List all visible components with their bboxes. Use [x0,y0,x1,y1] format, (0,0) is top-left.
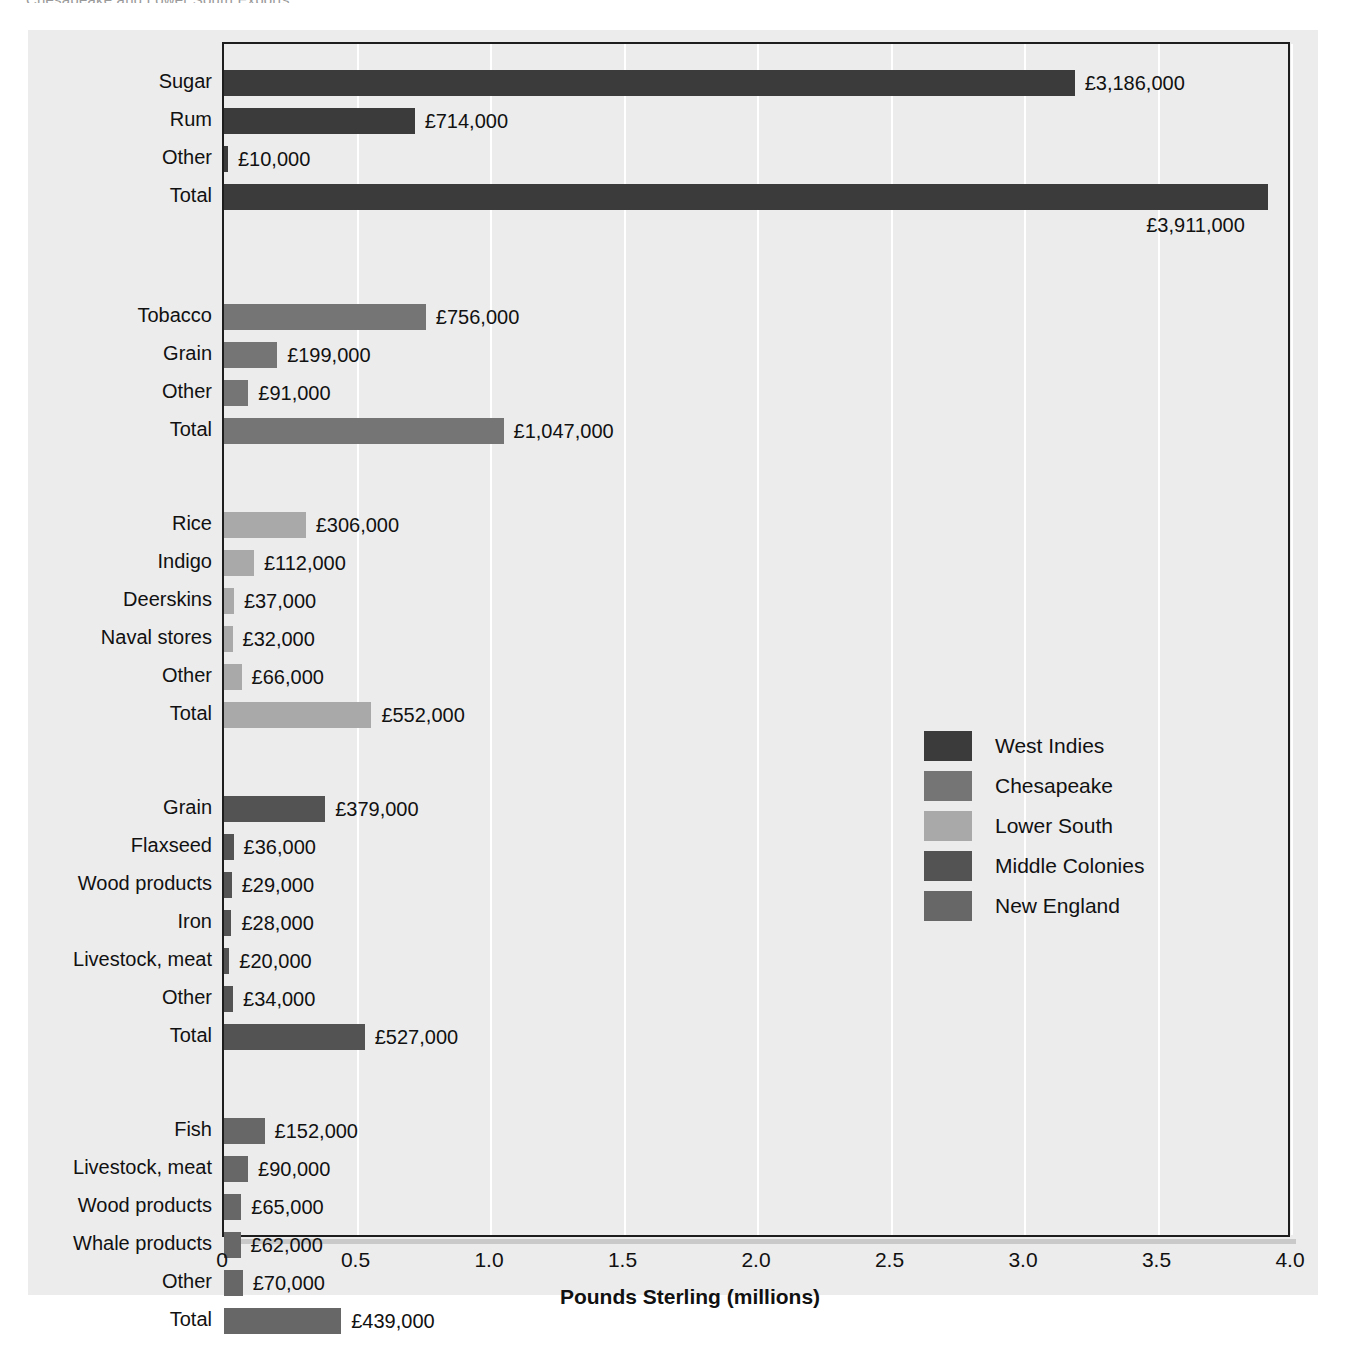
gridline [357,44,359,1235]
x-axis-title-text: Pounds Sterling (millions) [560,1285,820,1309]
bar-value-label: £714,000 [425,110,508,133]
chart-legend: West IndiesChesapeakeLower SouthMiddle C… [924,726,1144,926]
bar-value-label: £28,000 [241,912,313,935]
bar[interactable] [224,1024,365,1050]
bar[interactable] [224,304,426,330]
category-label: Iron [178,908,212,934]
legend-swatch [924,771,972,801]
plot-area: £3,186,000£714,000£10,000£3,911,000£756,… [222,42,1290,1237]
top-caption: Chesapeake and Lower South Exports [26,0,290,3]
x-tick-label: 0 [216,1248,228,1272]
bar-value-label: £91,000 [258,382,330,405]
category-label: Wood products [78,870,212,896]
x-tick-label: 3.5 [1142,1248,1171,1272]
bar[interactable] [224,664,242,690]
category-label: Fish [174,1116,212,1142]
category-label: Total [170,182,212,208]
bar-value-label: £32,000 [243,628,315,651]
bar-value-label: £152,000 [275,1120,358,1143]
category-label: Other [162,144,212,170]
bar[interactable] [224,70,1075,96]
gridline [757,44,759,1235]
legend-swatch [924,811,972,841]
bar-value-label: £34,000 [243,988,315,1011]
category-label: Total [170,1022,212,1048]
category-label: Grain [163,794,212,820]
x-tick-label: 1.0 [474,1248,503,1272]
bar[interactable] [224,1156,248,1182]
legend-item-chesapeake[interactable]: Chesapeake [924,766,1144,806]
bar[interactable] [224,986,233,1012]
bar[interactable] [224,834,234,860]
legend-item-lower-south[interactable]: Lower South [924,806,1144,846]
bar[interactable] [224,1118,265,1144]
category-label: Total [170,700,212,726]
x-tick-label: 2.5 [875,1248,904,1272]
bar-value-label: £90,000 [258,1158,330,1181]
category-label: Livestock, meat [73,946,212,972]
bar[interactable] [224,588,234,614]
bar-value-label: £10,000 [238,148,310,171]
bar-value-label: £756,000 [436,306,519,329]
legend-item-middle-colonies[interactable]: Middle Colonies [924,846,1144,886]
legend-label: Chesapeake [995,774,1113,798]
bar[interactable] [224,184,1268,210]
bar[interactable] [224,910,231,936]
bar[interactable] [224,512,306,538]
category-label: Other [162,378,212,404]
category-label: Other [162,662,212,688]
x-tick-label: 0.5 [341,1248,370,1272]
bar[interactable] [224,380,248,406]
category-label: Tobacco [138,302,213,328]
bar-value-label: £20,000 [239,950,311,973]
plot-area-shadow [228,1239,1296,1244]
bar-value-label: £62,000 [251,1234,323,1257]
bar[interactable] [224,550,254,576]
bar[interactable] [224,342,277,368]
category-label: Rum [170,106,212,132]
category-label: Wood products [78,1192,212,1218]
bar[interactable] [224,146,228,172]
bar-value-label: £3,186,000 [1085,72,1185,95]
gridline [1024,44,1026,1235]
category-label: Total [170,1306,212,1332]
legend-item-west-indies[interactable]: West Indies [924,726,1144,766]
category-label: Naval stores [101,624,212,650]
category-label: Grain [163,340,212,366]
legend-swatch [924,891,972,921]
bar-value-label: £3,911,000 [1146,214,1245,237]
legend-label: New England [995,894,1120,918]
x-tick-label: 3.0 [1008,1248,1037,1272]
bar[interactable] [224,702,371,728]
category-label: Sugar [159,68,212,94]
bar-value-label: £527,000 [375,1026,458,1049]
gridline [891,44,893,1235]
bar[interactable] [224,872,232,898]
bar-value-label: £65,000 [251,1196,323,1219]
x-tick-label: 1.5 [608,1248,637,1272]
bar-value-label: £199,000 [287,344,370,367]
legend-label: Middle Colonies [995,854,1144,878]
bar-value-label: £379,000 [335,798,418,821]
category-label: Flaxseed [131,832,212,858]
legend-label: West Indies [995,734,1104,758]
legend-item-new-england[interactable]: New England [924,886,1144,926]
gridline [1291,44,1293,1235]
gridline [490,44,492,1235]
bar-value-label: £36,000 [244,836,316,859]
bar-value-label: £306,000 [316,514,399,537]
legend-swatch [924,731,972,761]
category-label: Rice [172,510,212,536]
bar[interactable] [224,418,504,444]
x-tick-label: 4.0 [1275,1248,1304,1272]
bar[interactable] [224,1308,341,1334]
category-label: Total [170,416,212,442]
bar[interactable] [224,626,233,652]
bar[interactable] [224,948,229,974]
category-label: Whale products [73,1230,212,1256]
bar[interactable] [224,1194,241,1220]
bar[interactable] [224,796,325,822]
x-tick-label: 2.0 [741,1248,770,1272]
bar-value-label: £1,047,000 [514,420,614,443]
bar[interactable] [224,108,415,134]
